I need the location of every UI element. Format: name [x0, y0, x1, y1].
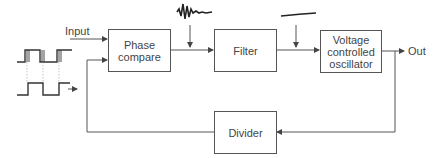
filter-label: Filter — [233, 45, 257, 57]
phase-compare-block: Phase compare — [108, 29, 171, 72]
divider-label: Divider — [228, 127, 262, 139]
filter-block: Filter — [214, 29, 277, 72]
vco-block: Voltage controlled oscillator — [320, 30, 382, 73]
output-label: Out — [408, 45, 426, 57]
divider-block: Divider — [214, 111, 277, 154]
square-waves-icon — [17, 50, 72, 95]
input-label: Input — [65, 25, 89, 37]
vco-label: Voltage controlled oscillator — [327, 34, 375, 70]
smooth-dc-level-icon — [281, 13, 316, 16]
phase-compare-label: Phase compare — [118, 39, 161, 63]
noisy-waveform-icon — [177, 4, 212, 19]
